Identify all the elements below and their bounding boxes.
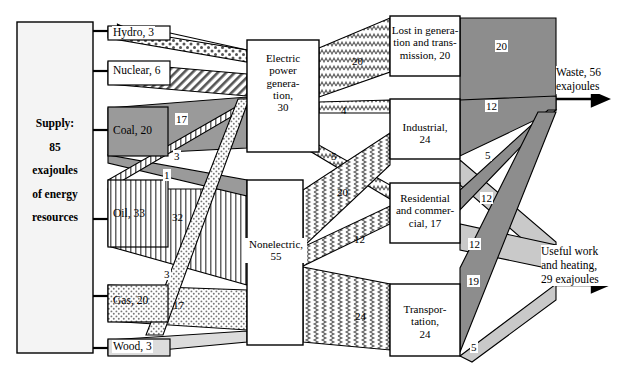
flow-value-coal-to-nonelectric: 3 [173,150,181,162]
transportation-line-0: Transpor- [391,303,459,315]
industrial-line-1: 24 [391,133,459,145]
output-label-useful-work: Useful work and heating, 29 exajoules [541,245,621,286]
flow-value-industrial-to-useful: 12 [480,192,493,204]
supply-line-4: resources [19,206,91,230]
sink-label-residential: Residential and commer- cial, 17 [391,192,459,229]
source-label-wood: Wood, 3 [112,340,153,353]
flow-value-residential-to-waste: 5 [484,149,492,161]
flow-nonelectric-to-transportation [303,267,390,350]
industrial-line-0: Industrial, [391,121,459,133]
flow-value-gas-to-electric: 3 [163,268,171,280]
transportation-line-1: tation, [391,315,459,327]
lost-line-1: tion and trans- [391,36,459,48]
sink-label-transportation: Transpor- tation, 24 [391,303,459,340]
residential-line-0: Residential [391,192,459,204]
flow-value-gas-to-nonelectric: 17 [173,299,184,311]
supply-line-2: exajoules [19,159,91,183]
flow-value-nonelectric-to-industrial: 20 [337,186,348,198]
flow-value-electric-to-residential: 5 [331,150,337,162]
supply-line-3: of energy [19,183,91,207]
epg-line-2: genera- [249,77,317,89]
supply-line-1: 85 [19,136,91,160]
useful-line-1: and heating, [541,259,621,273]
supply-line-0: Supply: [19,112,91,136]
source-label-gas: Gas, 20 [112,294,149,307]
source-label-nuclear: Nuclear, 6 [112,64,161,77]
flow-value-nonelectric-to-transportation: 24 [355,310,366,322]
flow-value-coal-to-electric: 17 [175,113,188,125]
flow-value-electric-to-industrial: 4 [341,104,347,116]
epg-line-0: Electric [249,52,317,64]
output-label-waste: Waste, 56 exajoules [556,66,622,94]
epg-line-1: power [249,64,317,76]
sink-label-lost: Lost in genera- tion and trans- mission,… [391,24,459,61]
lost-line-0: Lost in genera- [391,24,459,36]
flow-electric-to-industrial [319,100,390,113]
flow-value-nonelectric-to-residential: 12 [354,233,365,245]
flow-value-transportation-to-waste: 19 [467,275,480,287]
converter-label-electric-power-generation: Electric power genera- tion, 30 [249,52,317,114]
supply-label: Supply: 85 exajoules of energy resources [19,112,91,230]
converter-label-nonelectric: Nonelectric, 55 [245,238,307,263]
source-label-oil: Oil, 33 [112,207,146,220]
waste-line-0: Waste, 56 [556,66,622,80]
waste-line-1: exajoules [556,80,622,94]
flow-value-oil-to-nonelectric: 32 [172,211,183,223]
nonelectric-line-0: Nonelectric, [245,238,307,250]
useful-line-0: Useful work [541,245,621,259]
flow-value-residential-to-useful: 12 [468,238,481,250]
lost-line-2: mission, 20 [391,49,459,61]
epg-line-4: 30 [249,101,317,113]
flow-value-industrial-to-waste: 12 [485,100,498,112]
flow-value-lost-to-waste: 20 [495,40,508,52]
epg-line-3: tion, [249,89,317,101]
residential-line-2: cial, 17 [391,217,459,229]
flow-value-oil-to-electric: 1 [163,169,171,181]
sink-label-industrial: Industrial, 24 [391,121,459,146]
useful-line-2: 29 exajoules [541,273,621,287]
nonelectric-line-1: 55 [245,250,307,262]
sankey-diagram: Supply: 85 exajoules of energy resources… [0,0,623,377]
transportation-line-2: 24 [391,328,459,340]
source-label-hydro: Hydro, 3 [112,26,155,39]
source-label-coal: Coal, 20 [112,124,153,137]
flow-value-transportation-to-useful: 5 [470,341,478,353]
residential-line-1: and commer- [391,204,459,216]
flow-value-electric-to-lost: 20 [352,55,363,67]
